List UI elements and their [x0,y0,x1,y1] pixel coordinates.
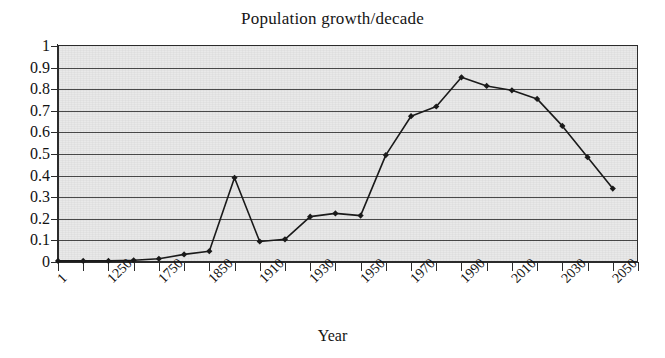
chart-figure: Population growth/decade 10.90.80.70.60.… [0,0,665,358]
data-point-marker [231,175,237,181]
data-point-marker [55,258,61,264]
x-axis-title: Year [0,327,665,345]
data-point-marker [332,210,338,216]
data-point-marker [181,251,187,257]
data-point-marker [156,256,162,262]
data-point-marker [131,257,137,263]
data-point-marker [206,248,212,254]
data-point-marker [105,258,111,264]
data-series-layer [0,0,665,358]
data-point-marker [358,212,364,218]
data-point-marker [80,258,86,264]
series-line [58,77,613,261]
series-markers [55,74,616,264]
data-point-marker [509,87,515,93]
data-point-marker [484,83,490,89]
data-point-marker [257,238,263,244]
